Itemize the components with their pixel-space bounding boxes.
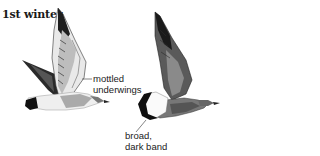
label-line: broad, xyxy=(125,131,167,142)
label-mottled-underwings: mottled underwings xyxy=(93,74,142,95)
label-line: mottled xyxy=(93,74,142,85)
label-line: underwings xyxy=(93,85,142,96)
label-broad-dark-band: broad, dark band xyxy=(125,131,167,152)
bird-right-illustration xyxy=(138,12,220,120)
label-line: dark band xyxy=(125,142,167,153)
